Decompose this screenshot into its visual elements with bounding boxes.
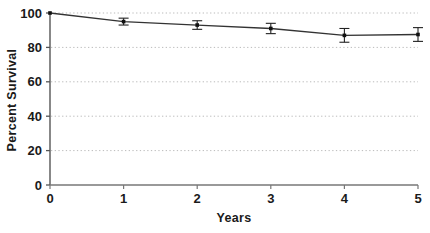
x-tick-label-2: 2 [194, 191, 201, 206]
data-point-year-3 [269, 27, 273, 31]
x-tick-label-3: 3 [267, 191, 274, 206]
chart-container: 100806040200 012345 Percent Survival Yea… [0, 0, 430, 233]
x-tick-label-0: 0 [46, 191, 53, 206]
y-tick-label-80: 80 [28, 40, 42, 55]
x-tick-label-4: 4 [341, 191, 349, 206]
data-point-year-4 [343, 34, 347, 38]
y-tick-label-40: 40 [28, 109, 42, 124]
y-tick-label-100: 100 [20, 6, 42, 21]
survival-line-chart: 100806040200 012345 Percent Survival Yea… [0, 0, 430, 233]
data-point-year-5 [416, 33, 420, 37]
y-tick-label-0: 0 [35, 178, 42, 193]
y-axis-title: Percent Survival [5, 49, 19, 152]
data-point-year-2 [195, 23, 199, 27]
y-tick-label-20: 20 [28, 143, 42, 158]
data-point-year-0 [48, 11, 52, 15]
x-tick-label-5: 5 [414, 191, 421, 206]
x-axis-title: Years [217, 211, 252, 225]
data-point-year-1 [122, 20, 126, 24]
y-tick-label-60: 60 [28, 74, 42, 89]
x-tick-label-1: 1 [120, 191, 127, 206]
